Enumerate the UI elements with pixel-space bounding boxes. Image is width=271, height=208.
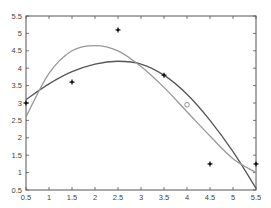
- x-tick-label: 3.5: [159, 193, 169, 202]
- x-tick-label: 4: [185, 193, 189, 202]
- y-tick-label: 1: [18, 168, 22, 177]
- x-tick-label: 2: [93, 193, 97, 202]
- x-tick-label: 4.5: [205, 193, 215, 202]
- y-tick-label: 2: [18, 133, 22, 142]
- x-tick-label: 1: [47, 193, 51, 202]
- x-tick-label: 0.5: [21, 193, 31, 202]
- x-tick-label: 5.5: [251, 193, 261, 202]
- y-tick-label: 5: [18, 29, 22, 38]
- x-tick-label: 3: [139, 193, 143, 202]
- y-tick-label: 4: [18, 64, 22, 73]
- plot-area: [26, 16, 256, 190]
- x-tick-label: 2.5: [113, 193, 123, 202]
- x-tick-label: 1.5: [67, 193, 77, 202]
- y-tick-label: 0.5: [12, 186, 22, 195]
- y-tick-label: 2.5: [12, 116, 22, 125]
- x-tick-label: 5: [231, 193, 235, 202]
- y-tick-label: 5.5: [12, 12, 22, 21]
- open-circle-marker: [185, 102, 190, 107]
- y-tick-label: 1.5: [12, 151, 22, 160]
- chart: 0.511.522.533.544.555.5 0.511.522.533.54…: [0, 0, 271, 208]
- y-tick-label: 3.5: [12, 81, 22, 90]
- y-tick-label: 3: [18, 99, 22, 108]
- y-tick-label: 4.5: [12, 46, 22, 55]
